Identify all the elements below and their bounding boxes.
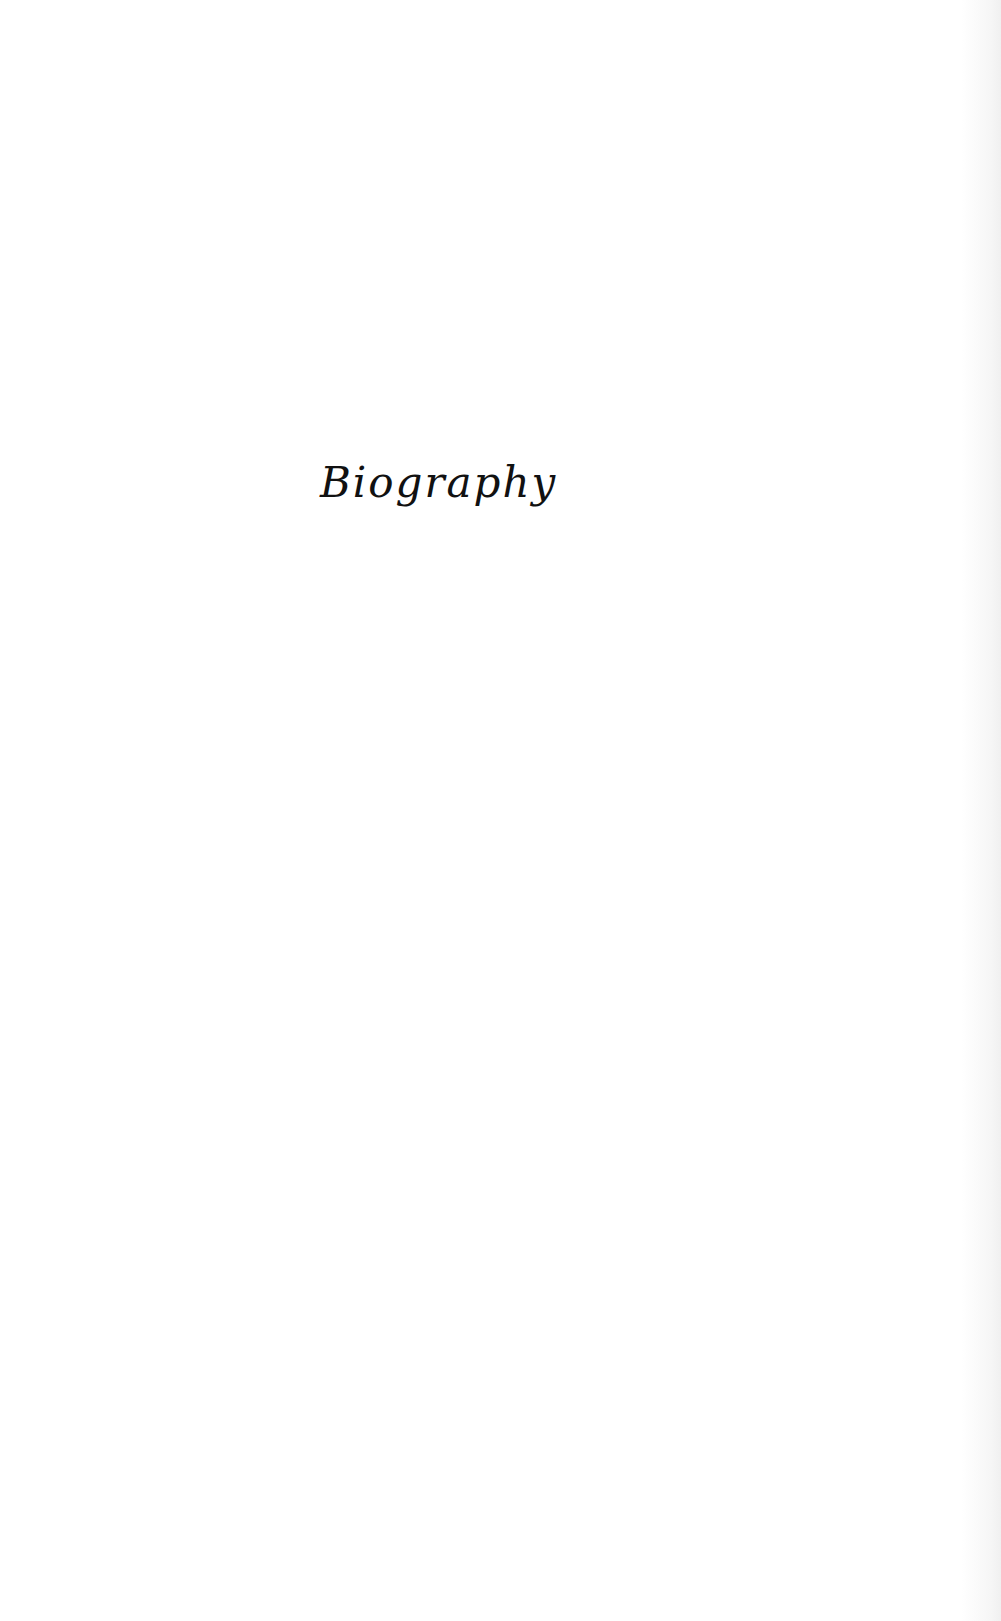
book-page: Biography bbox=[0, 0, 1001, 1621]
section-title: Biography bbox=[320, 462, 557, 504]
